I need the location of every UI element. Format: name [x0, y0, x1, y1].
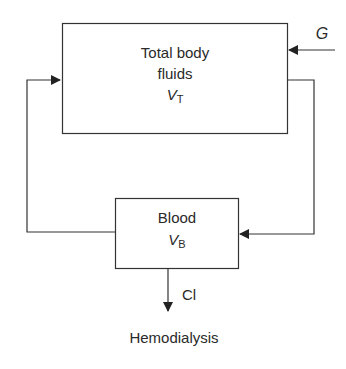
blood-volume-subscript: B: [178, 238, 185, 250]
cl-output-label: Cl: [182, 286, 208, 304]
hemodialysis-caption: Hemodialysis: [100, 329, 248, 347]
blood-line-1: Blood: [115, 209, 239, 227]
g-input-label: G: [312, 25, 332, 43]
blood-volume-symbol: V: [168, 231, 178, 248]
tbf-line-2: fluids: [62, 65, 288, 83]
blood-label: Blood VB: [115, 209, 239, 253]
tbf-volume: VT: [62, 86, 288, 108]
tbf-volume-subscript: T: [177, 93, 184, 105]
total-body-fluids-label: Total body fluids VT: [62, 44, 288, 108]
tbf-volume-symbol: V: [167, 86, 177, 103]
tbf-line-1: Total body: [62, 44, 288, 62]
blood-volume: VB: [115, 231, 239, 253]
